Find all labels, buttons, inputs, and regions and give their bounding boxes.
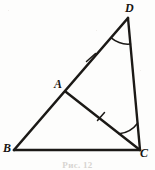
paper-speck (30, 120, 31, 121)
vertex-label-a: A (54, 78, 62, 90)
vertex-label-d: D (125, 2, 134, 14)
paper-speck (8, 10, 9, 11)
figure-caption: Рис. 12 (0, 160, 155, 170)
segment-AC-line (66, 92, 140, 150)
paper-speck (140, 70, 141, 71)
paper-speck (96, 30, 97, 31)
triangle-diagram (0, 0, 155, 170)
geometry-figure: D A B C Рис. 12 (0, 0, 155, 170)
angle-D-arc-icon (112, 38, 131, 44)
angle-C-arc-icon (119, 123, 137, 134)
vertex-label-b: B (3, 142, 11, 154)
vertex-label-c: C (140, 147, 148, 159)
